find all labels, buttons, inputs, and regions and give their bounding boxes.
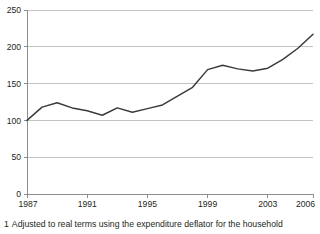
- chart-footnote: 1Adjusted to real terms using the expend…: [4, 219, 320, 230]
- x-tick-labels: 198719911995199920032006: [18, 199, 315, 209]
- series-line: [27, 34, 313, 120]
- x-tick-label: 1995: [138, 199, 157, 209]
- x-tick-label: 2003: [258, 199, 277, 209]
- footnote-text: Adjusted to real terms using the expendi…: [12, 219, 283, 229]
- data-series: [27, 34, 313, 120]
- y-tick-label: 100: [7, 116, 22, 126]
- x-tick-label: 1999: [198, 199, 217, 209]
- y-tick-label: 250: [7, 5, 22, 15]
- y-tick-label: 200: [7, 42, 22, 52]
- x-tick-label: 1991: [78, 199, 97, 209]
- x-tick-label: 1987: [18, 199, 37, 209]
- chart-figure: 050100150200250 198719911995199920032006…: [0, 0, 320, 234]
- x-tick-label: 2006: [296, 199, 315, 209]
- line-chart: 050100150200250 198719911995199920032006: [0, 0, 320, 212]
- footnote-marker: 1: [4, 219, 9, 229]
- y-tick-labels: 050100150200250: [7, 5, 22, 199]
- y-tick-label: 50: [11, 152, 21, 162]
- y-axis: [24, 10, 28, 194]
- y-tick-label: 150: [7, 79, 22, 89]
- x-axis: [27, 194, 313, 198]
- y-tick-label: 0: [16, 189, 21, 199]
- gridlines: [27, 10, 313, 157]
